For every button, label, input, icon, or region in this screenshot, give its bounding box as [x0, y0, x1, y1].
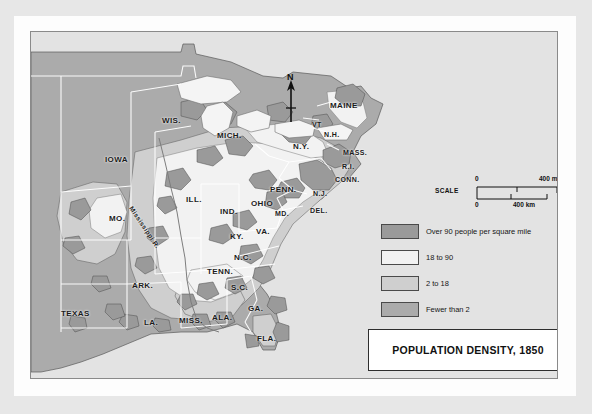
legend-row: 18 to 90: [381, 247, 558, 268]
scale-top-max: 400 mi: [539, 175, 558, 182]
scale-bottom-zero: 0: [475, 201, 479, 208]
legend-row: Fewer than 2: [381, 299, 558, 320]
legend-row: Over 90 people per square mile: [381, 221, 558, 242]
scale-bar: SCALE 0 400 mi 0 400 km: [435, 175, 558, 209]
legend-label-fewer-than-2: Fewer than 2: [426, 305, 470, 314]
legend-swatch-2-to-18: [381, 276, 419, 291]
map-title: POPULATION DENSITY, 1850: [392, 344, 544, 356]
map-panel: N SCALE 0 400 mi 0 400 km Over 90 people…: [30, 31, 558, 379]
legend-row: 2 to 18: [381, 273, 558, 294]
legend-swatch-over-90: [381, 224, 419, 239]
scale-bottom-max: 400 km: [513, 201, 535, 208]
north-label: N: [287, 72, 294, 82]
legend: Over 90 people per square mile 18 to 90 …: [381, 221, 558, 325]
legend-swatch-18-to-90: [381, 250, 419, 265]
legend-swatch-fewer-than-2: [381, 302, 419, 317]
scale-top-zero: 0: [475, 175, 479, 182]
scale-label: SCALE: [435, 187, 459, 194]
north-arrow: N: [278, 72, 304, 124]
legend-label-over-90: Over 90 people per square mile: [426, 227, 531, 236]
map-title-box: POPULATION DENSITY, 1850: [368, 329, 558, 371]
legend-label-2-to-18: 2 to 18: [426, 279, 449, 288]
legend-label-18-to-90: 18 to 90: [426, 253, 453, 262]
